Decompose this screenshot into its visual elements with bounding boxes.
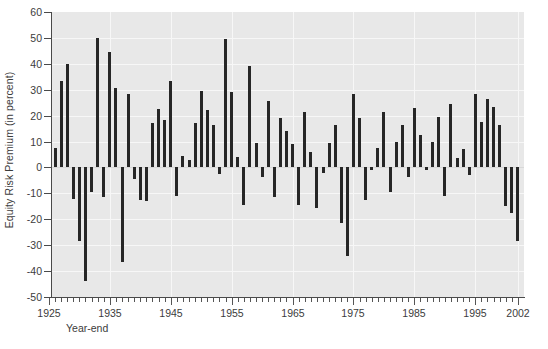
x-axis-title: Year-end — [66, 322, 108, 334]
bar — [212, 125, 215, 168]
bar — [407, 167, 410, 176]
bar — [456, 158, 459, 167]
bar — [389, 167, 392, 192]
gridline-horizontal — [52, 38, 524, 39]
bar — [78, 167, 81, 241]
y-tick-label: -20 — [0, 214, 42, 224]
x-tick-mark-minor — [92, 298, 93, 302]
x-tick-mark-major — [171, 298, 172, 305]
x-tick-mark-minor — [481, 298, 482, 302]
x-tick-mark-minor — [177, 298, 178, 302]
y-tick-label: -50 — [0, 292, 42, 302]
bar — [510, 167, 513, 212]
plot-area — [52, 12, 524, 297]
x-tick-mark-minor — [469, 298, 470, 302]
bar — [431, 142, 434, 168]
x-tick-mark-minor — [390, 298, 391, 302]
bar — [303, 112, 306, 168]
x-tick-mark-minor — [262, 298, 263, 302]
x-tick-mark-major — [293, 298, 294, 305]
x-tick-mark-minor — [487, 298, 488, 302]
x-tick-mark-minor — [299, 298, 300, 302]
x-tick-mark-major — [49, 298, 50, 305]
bar — [382, 112, 385, 168]
y-tick-label: 60 — [0, 7, 42, 17]
x-tick-mark-minor — [286, 298, 287, 302]
bar — [315, 167, 318, 207]
x-tick-mark-minor — [207, 298, 208, 302]
bar — [60, 81, 63, 168]
y-tick-mark — [44, 90, 51, 91]
y-tick-mark — [44, 193, 51, 194]
y-tick-mark — [44, 142, 51, 143]
x-tick-mark-minor — [213, 298, 214, 302]
x-tick-mark-minor — [98, 298, 99, 302]
x-tick-mark-minor — [463, 298, 464, 302]
x-tick-label: 1975 — [331, 307, 375, 319]
x-tick-mark-minor — [451, 298, 452, 302]
x-tick-mark-minor — [274, 298, 275, 302]
x-tick-mark-minor — [408, 298, 409, 302]
bar — [340, 167, 343, 223]
x-tick-label: 2002 — [496, 307, 540, 319]
bar — [261, 167, 264, 176]
bar — [401, 125, 404, 168]
bar — [96, 38, 99, 168]
x-tick-label: 1945 — [149, 307, 193, 319]
bar — [334, 125, 337, 168]
y-tick-mark — [44, 167, 51, 168]
y-tick-mark — [44, 271, 51, 272]
y-tick-label: 20 — [0, 111, 42, 121]
bar — [218, 167, 221, 173]
bar — [516, 167, 519, 241]
y-tick-label-text: -50 — [2, 292, 42, 302]
bar — [90, 167, 93, 192]
x-tick-mark-minor — [128, 298, 129, 302]
x-tick-mark-minor — [347, 298, 348, 302]
gridline-horizontal — [52, 90, 524, 91]
x-tick-mark-minor — [183, 298, 184, 302]
x-tick-mark-minor — [500, 298, 501, 302]
x-tick-mark-minor — [256, 298, 257, 302]
bar — [273, 167, 276, 197]
bar — [364, 167, 367, 199]
bar — [102, 167, 105, 197]
bar — [297, 167, 300, 205]
bar — [358, 118, 361, 167]
x-tick-mark-minor — [85, 298, 86, 302]
x-tick-mark-major — [414, 298, 415, 305]
bar — [200, 91, 203, 167]
bar — [370, 167, 373, 170]
y-tick-label: 10 — [0, 137, 42, 147]
x-tick-mark-minor — [67, 298, 68, 302]
bar — [328, 143, 331, 168]
x-tick-mark-minor — [104, 298, 105, 302]
bar — [188, 160, 191, 168]
bar — [486, 99, 489, 168]
y-tick-label-text: 10 — [2, 137, 42, 147]
bar — [376, 148, 379, 167]
x-tick-mark-minor — [140, 298, 141, 302]
bar — [291, 144, 294, 167]
x-tick-mark-major — [353, 298, 354, 305]
x-tick-mark-minor — [323, 298, 324, 302]
bar — [248, 66, 251, 167]
x-tick-mark-minor — [317, 298, 318, 302]
bar — [114, 88, 117, 167]
bar — [181, 156, 184, 168]
x-tick-mark-minor — [360, 298, 361, 302]
x-tick-mark-minor — [427, 298, 428, 302]
x-tick-mark-minor — [366, 298, 367, 302]
x-tick-mark-major — [475, 298, 476, 305]
bar — [151, 123, 154, 167]
x-tick-mark-minor — [280, 298, 281, 302]
y-tick-label: -10 — [0, 188, 42, 198]
bar — [194, 123, 197, 167]
x-tick-label: 1935 — [88, 307, 132, 319]
gridline-horizontal — [52, 64, 524, 65]
y-tick-mark — [44, 64, 51, 65]
bar — [462, 149, 465, 167]
x-tick-mark-minor — [378, 298, 379, 302]
bar — [437, 117, 440, 168]
gridline-horizontal — [52, 142, 524, 143]
